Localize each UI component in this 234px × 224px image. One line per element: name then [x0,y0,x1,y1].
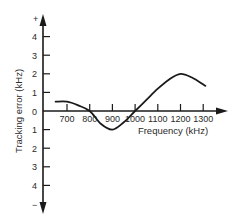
y-axis-down-arrow [40,202,47,214]
y-tick-label: 2 [32,69,37,79]
y-zero-label: 0 [32,107,37,117]
x-tick-label: 1200 [170,114,190,124]
y-tick-label: 4 [32,181,37,191]
y-tick-label: 3 [32,162,37,172]
x-axis-label: Frequency (kHz) [138,125,208,136]
y-top-sign: + [33,14,38,24]
tracking-error-chart: 12341234 7008009001000110012001300 + − 0… [0,0,234,224]
x-tick-label: 1100 [148,114,167,124]
x-tick-label: 1300 [193,114,213,124]
y-tick-label: 2 [32,144,37,154]
x-tick-label: 700 [59,114,74,124]
y-tick-label: 1 [32,88,37,98]
y-tick-label: 1 [32,125,37,135]
y-axis-up-arrow [40,14,47,26]
y-bottom-sign: − [32,200,37,210]
x-tick-label: 900 [105,114,120,124]
y-tick-label: 3 [32,51,37,61]
y-tick-label: 4 [32,32,37,42]
x-axis-right-arrow [216,108,228,115]
y-axis-label: Tracking error (kHz) [13,69,24,153]
